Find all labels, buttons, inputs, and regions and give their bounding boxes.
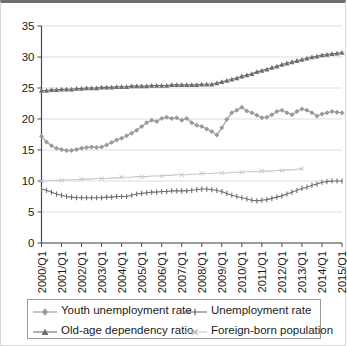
svg-text:2003/Q1: 2003/Q1: [96, 251, 108, 293]
legend-item-foreign-born-population: Foreign-born population: [178, 320, 322, 340]
legend-label: Youth unemployment rate: [61, 304, 192, 316]
svg-text:15: 15: [22, 144, 35, 156]
line-chart: 05101520253035 2000/Q12001/Q12002/Q12003…: [1, 3, 347, 295]
legend-label: Unemployment rate: [211, 304, 311, 316]
x-axis-ticks: [42, 243, 343, 247]
legend-marker-plus-icon: [182, 304, 208, 316]
svg-text:2015/Q1: 2015/Q1: [336, 251, 347, 293]
svg-text:30: 30: [22, 51, 35, 63]
svg-text:0: 0: [28, 237, 34, 249]
data-series-layer: [39, 50, 345, 203]
svg-text:2002/Q1: 2002/Q1: [76, 251, 88, 293]
legend-label: Old-age dependency ratio: [61, 324, 193, 336]
svg-text:2010/Q1: 2010/Q1: [236, 251, 248, 293]
chart-legend: Youth unemployment rate Unemployment rat…: [27, 299, 321, 339]
legend-item-unemployment-rate: Unemployment rate: [178, 300, 322, 320]
svg-text:2011/Q1: 2011/Q1: [256, 251, 268, 292]
svg-text:5: 5: [28, 206, 34, 218]
y-axis-tick-labels: 05101520253035: [22, 20, 35, 249]
svg-text:10: 10: [22, 175, 35, 187]
svg-text:2001/Q1: 2001/Q1: [56, 251, 68, 293]
x-axis-tick-labels: 2000/Q12001/Q12002/Q12003/Q12004/Q12005/…: [36, 251, 347, 293]
svg-text:2014/Q1: 2014/Q1: [316, 251, 328, 293]
svg-text:35: 35: [22, 20, 35, 32]
svg-text:2006/Q1: 2006/Q1: [156, 251, 168, 293]
svg-text:2005/Q1: 2005/Q1: [136, 251, 148, 293]
svg-text:2007/Q1: 2007/Q1: [176, 251, 188, 293]
legend-marker-diamond-icon: [32, 304, 58, 316]
svg-text:2013/Q1: 2013/Q1: [296, 251, 308, 293]
svg-text:2008/Q1: 2008/Q1: [196, 251, 208, 293]
svg-text:2000/Q1: 2000/Q1: [36, 251, 48, 293]
legend-item-old-age-dependency-ratio: Old-age dependency ratio: [28, 320, 178, 340]
svg-text:2004/Q1: 2004/Q1: [116, 251, 128, 293]
legend-marker-cross-icon: [182, 324, 208, 336]
svg-text:20: 20: [22, 113, 35, 125]
legend-marker-triangle-icon: [32, 324, 58, 336]
svg-text:2012/Q1: 2012/Q1: [276, 251, 288, 293]
legend-label: Foreign-born population: [211, 324, 333, 336]
svg-text:2009/Q1: 2009/Q1: [216, 251, 228, 293]
legend-item-youth-unemployment-rate: Youth unemployment rate: [28, 300, 178, 320]
svg-text:25: 25: [22, 82, 35, 94]
